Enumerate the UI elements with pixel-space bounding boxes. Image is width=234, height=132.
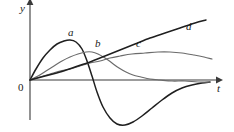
curve-label-d: d xyxy=(186,21,192,32)
y-axis-arrowhead xyxy=(27,0,34,5)
x-axis-label: t xyxy=(217,83,220,94)
curve-label-a: a xyxy=(68,27,74,38)
y-axis-label: y xyxy=(20,3,25,14)
curve-path-d xyxy=(30,20,206,80)
curves-group xyxy=(30,20,212,125)
origin-label: 0 xyxy=(18,82,24,93)
curve-path-c xyxy=(30,52,212,80)
curve-plot-svg xyxy=(0,0,234,132)
curve-label-c: c xyxy=(136,38,141,49)
figure-container: y t 0 a b c d xyxy=(0,0,234,132)
curve-label-b: b xyxy=(95,38,101,49)
axes-group xyxy=(27,0,223,120)
